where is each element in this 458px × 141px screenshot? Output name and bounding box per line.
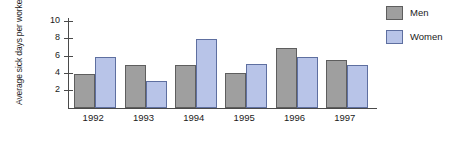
y-axis-title-line-2: sick days (14, 37, 24, 73)
bar-men (125, 65, 146, 108)
x-axis-tick-label: 1994 (169, 112, 219, 124)
legend: MenWomen (386, 6, 443, 44)
legend-entry-men[interactable]: Men (386, 6, 443, 20)
bar-men (175, 65, 196, 108)
bar-group (326, 18, 368, 108)
y-axis-tick: 6 (64, 56, 73, 57)
bar-chart: Average sick days per worker 246810 1992… (0, 0, 458, 141)
y-axis-tick-label: 6 (55, 50, 60, 61)
bar-women (146, 81, 167, 108)
bar-group (175, 18, 217, 108)
plot-area: 246810 199219931994199519961997 (68, 18, 370, 108)
y-axis-line (68, 18, 69, 108)
y-axis-tick-label: 10 (50, 15, 60, 26)
bar-women (297, 57, 318, 108)
bar-men (74, 74, 95, 108)
legend-swatch-icon (386, 30, 403, 44)
y-axis-tick: 2 (64, 90, 73, 91)
y-axis-title-line-3: per worker (14, 0, 24, 37)
y-axis-tick: 8 (64, 38, 73, 39)
y-axis-tick: 4 (64, 73, 73, 74)
bar-group (125, 18, 167, 108)
bar-men (225, 73, 246, 108)
y-axis-tick: 10 (64, 21, 73, 22)
bar-men (326, 60, 347, 108)
x-axis-tick-label: 1992 (68, 112, 118, 124)
x-axis-line (68, 108, 377, 109)
bar-men (276, 48, 297, 108)
bar-group (74, 18, 116, 108)
legend-swatch-icon (386, 6, 403, 20)
x-axis-tick-label: 1993 (118, 112, 168, 124)
y-axis-tick-label: 8 (55, 32, 60, 43)
bar-women (347, 65, 368, 108)
y-axis-tick-label: 2 (55, 84, 60, 95)
y-axis-tick-label: 4 (55, 67, 60, 78)
bar-group (225, 18, 267, 108)
x-axis-tick-label: 1996 (269, 112, 319, 124)
bar-women (95, 57, 116, 108)
bar-group (276, 18, 318, 108)
legend-label: Men (410, 7, 428, 19)
x-axis-tick-label: 1997 (320, 112, 370, 124)
y-axis-title-line-1: Average (14, 73, 24, 106)
x-axis-tick-label: 1995 (219, 112, 269, 124)
legend-label: Women (410, 31, 443, 43)
y-axis-title: Average sick days per worker (0, 4, 38, 99)
bar-women (246, 64, 267, 108)
bar-women (196, 39, 217, 108)
legend-entry-women[interactable]: Women (386, 30, 443, 44)
